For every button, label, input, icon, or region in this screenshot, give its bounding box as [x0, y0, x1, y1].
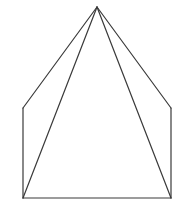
pentagon-diagram: [0, 0, 178, 216]
diagonal-apex-to-lower-right: [97, 7, 171, 198]
pentagon-outline: [23, 7, 171, 198]
edge-apex-to-upper-left: [23, 7, 97, 108]
edge-upper-right-to-apex: [97, 7, 171, 108]
apex-diagonals: [23, 7, 171, 198]
diagonal-apex-to-lower-left: [23, 7, 97, 198]
